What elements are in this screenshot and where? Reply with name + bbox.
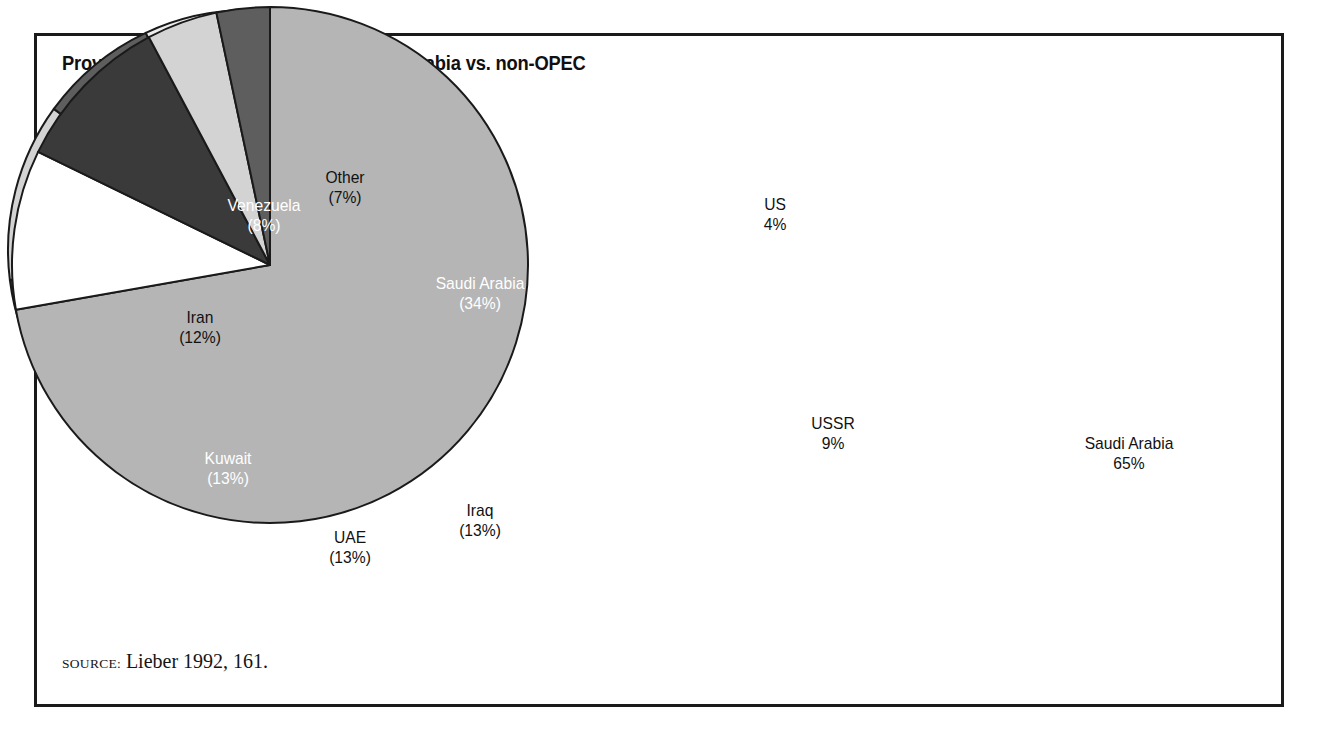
slice-label-value: 9%	[808, 333, 858, 353]
figure-page: Proven oil reserves 1991—OPEC, Saudi Ara…	[0, 0, 1317, 745]
slice-label-saudi-arabia: Saudi Arabia(34%)	[436, 274, 525, 314]
slice-label-name: UAE	[329, 528, 371, 548]
slice-label-ussr: USSR9%	[811, 414, 854, 454]
slice-label-saudi-arabia: Saudi Arabia65%	[1085, 434, 1174, 474]
slice-label-value: (13%)	[329, 548, 371, 568]
slice-label-uae: UAE(13%)	[329, 528, 371, 568]
slice-label-value: (13%)	[459, 521, 501, 541]
slice-label-name: Saudi Arabia	[1085, 434, 1174, 454]
slice-label-other: Other3%	[917, 189, 956, 229]
slice-label-kuwait: Kuwait(13%)	[205, 449, 252, 489]
slice-label-name: Saudi Arabia	[436, 274, 525, 294]
slice-label-value: (12%)	[179, 328, 221, 348]
slice-label-iran: Iran(12%)	[179, 308, 221, 348]
slice-label-name: Other	[325, 168, 364, 188]
slice-label-name: Kuwait	[205, 449, 252, 469]
slice-label-us: US4%	[764, 195, 787, 235]
slice-label-name: Iraq	[459, 501, 501, 521]
source-reference: Lieber 1992, 161.	[126, 650, 268, 672]
slice-label-mexico: Mexico9%	[808, 313, 858, 353]
slice-label-value: (8%)	[227, 216, 300, 236]
slice-label-value: (34%)	[436, 294, 525, 314]
slice-label-value: 65%	[1085, 454, 1174, 474]
slice-label-value: 9%	[811, 434, 854, 454]
slice-label-iraq: Iraq(13%)	[459, 501, 501, 541]
slice-label-value: 3%	[917, 209, 956, 229]
pie-chart-non-opec	[0, 0, 540, 545]
slice-label-other: Other(7%)	[325, 168, 364, 208]
source-note: Source: Lieber 1992, 161.	[62, 650, 268, 673]
slice-label-venezuela: Venezuela(8%)	[227, 196, 300, 236]
slice-label-value: 4%	[764, 215, 787, 235]
slice-label-name: USSR	[811, 414, 854, 434]
slice-label-name: Venezuela	[227, 196, 300, 216]
slice-label-name: Other	[917, 189, 956, 209]
slice-label-name: Iran	[179, 308, 221, 328]
slice-label-name: Mexico	[808, 313, 858, 333]
source-prefix: Source:	[62, 656, 121, 671]
slice-label-name: US	[764, 195, 787, 215]
slice-label-value: (7%)	[325, 188, 364, 208]
slice-label-value: (13%)	[205, 469, 252, 489]
charts-container: Saudi Arabia(34%)Iraq(13%)UAE(13%)Kuwait…	[0, 0, 1317, 745]
